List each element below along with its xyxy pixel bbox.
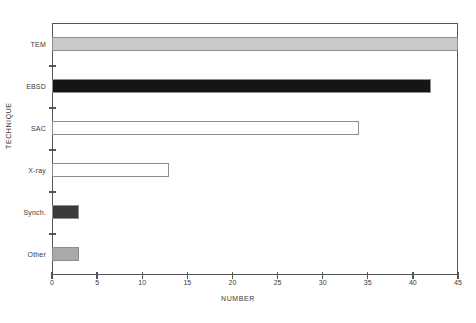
bar-row bbox=[52, 163, 458, 177]
bar-row bbox=[52, 79, 458, 93]
bar-row bbox=[52, 37, 458, 51]
x-axis-tick-label: 15 bbox=[183, 279, 191, 286]
bar-other bbox=[52, 247, 79, 261]
y-axis-label-tem: TEM bbox=[0, 41, 46, 48]
bar-row bbox=[52, 247, 458, 261]
x-axis-tick-label: 10 bbox=[138, 279, 146, 286]
y-axis-label-synch: Synch. bbox=[0, 209, 46, 216]
bar-row bbox=[52, 121, 458, 135]
y-axis-tick bbox=[49, 65, 56, 67]
y-axis-tick bbox=[49, 191, 56, 193]
y-axis-title: TECHNIQUE bbox=[5, 102, 12, 149]
x-axis-tick bbox=[142, 272, 143, 279]
plot-area bbox=[52, 23, 458, 275]
bar-synch bbox=[52, 205, 79, 219]
x-axis-tick bbox=[412, 272, 413, 279]
y-axis-label-ebsd: EBSD bbox=[0, 83, 46, 90]
x-axis-tick-label: 30 bbox=[319, 279, 327, 286]
x-axis-tick bbox=[232, 272, 233, 279]
bar-x-ray bbox=[52, 163, 169, 177]
bar-ebsd bbox=[52, 79, 431, 93]
x-axis-tick-label: 20 bbox=[229, 279, 237, 286]
x-axis-tick bbox=[51, 272, 52, 279]
y-axis-tick bbox=[49, 149, 56, 151]
x-axis-tick bbox=[96, 272, 97, 279]
x-axis-tick bbox=[187, 272, 188, 279]
bar-tem bbox=[52, 37, 458, 51]
x-axis-tick bbox=[367, 272, 368, 279]
x-axis-tick-label: 35 bbox=[364, 279, 372, 286]
bar-sac bbox=[52, 121, 359, 135]
x-axis-tick-label: 40 bbox=[409, 279, 417, 286]
x-axis-tick-label: 5 bbox=[95, 279, 99, 286]
y-axis-label-other: Other bbox=[0, 251, 46, 258]
x-axis-tick bbox=[322, 272, 323, 279]
x-axis-tick bbox=[457, 272, 458, 279]
x-axis-tick-label: 45 bbox=[454, 279, 462, 286]
x-axis-tick-label: 25 bbox=[274, 279, 282, 286]
bar-row bbox=[52, 205, 458, 219]
x-axis-tick-label: 0 bbox=[50, 279, 54, 286]
y-axis-label-x-ray: X-ray bbox=[0, 167, 46, 174]
y-axis-tick bbox=[49, 233, 56, 235]
x-axis-tick bbox=[277, 272, 278, 279]
y-axis-tick bbox=[49, 107, 56, 109]
bar-chart: TEMEBSDSACX-raySynch.Other 0510152025303… bbox=[0, 0, 476, 323]
x-axis-title: NUMBER bbox=[0, 295, 476, 302]
